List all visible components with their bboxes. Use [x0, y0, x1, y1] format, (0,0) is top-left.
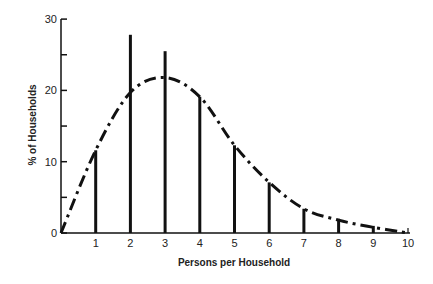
y-tick-label: 0 — [51, 227, 57, 239]
x-tick-label: 1 — [93, 237, 99, 249]
y-tick-label: 20 — [45, 84, 57, 96]
x-tick-label: 5 — [231, 237, 237, 249]
household-size-chart: 0102030 12345678910 Persons per Househol… — [0, 0, 433, 284]
x-tick-label: 4 — [197, 237, 203, 249]
x-ticks: 12345678910 — [93, 228, 414, 249]
y-tick-label: 10 — [45, 156, 57, 168]
x-tick-label: 6 — [266, 237, 272, 249]
x-axis-title: Persons per Household — [178, 257, 290, 268]
x-tick-label: 2 — [127, 237, 133, 249]
bars — [96, 35, 374, 233]
x-tick-label: 10 — [402, 237, 414, 249]
y-tick-label: 30 — [45, 13, 57, 25]
x-tick-label: 8 — [336, 237, 342, 249]
y-axis-title: % of Households — [27, 84, 38, 166]
x-tick-label: 3 — [162, 237, 168, 249]
x-tick-label: 9 — [370, 237, 376, 249]
y-ticks: 0102030 — [45, 13, 67, 239]
x-tick-label: 7 — [301, 237, 307, 249]
